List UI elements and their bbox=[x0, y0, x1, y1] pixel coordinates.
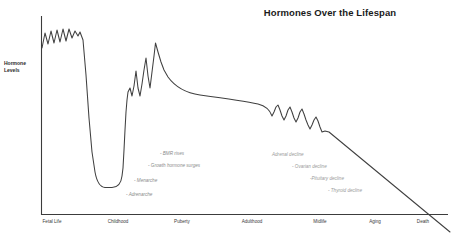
x-tick-label-puberty: Puberty bbox=[174, 219, 190, 224]
y-axis-label-line-2: Levels bbox=[4, 67, 38, 74]
chart-title: Hormones Over the Lifespan bbox=[230, 7, 430, 18]
annotation-menarche: - Menarche bbox=[134, 178, 157, 183]
annotation-bmr-rises: - BMR rises bbox=[160, 151, 184, 156]
x-tick-label-adulthood: Adulthood bbox=[242, 219, 263, 224]
x-tick-label-aging: Aging bbox=[369, 219, 381, 224]
annotation-adrenarche: - Adrenarche bbox=[126, 192, 152, 197]
x-tick-label-death: Death bbox=[417, 219, 429, 224]
y-axis-label: Hormone Levels bbox=[4, 60, 38, 75]
annotation-pituitary-decline: -Pituitary decline bbox=[310, 176, 344, 181]
x-tick-label-childhood: Childhood bbox=[108, 219, 129, 224]
hormone-level-curve bbox=[42, 29, 450, 232]
chart-canvas: Hormones Over the Lifespan Hormone Level… bbox=[0, 0, 460, 238]
annotation-adrenal-decline: Adrenal decline bbox=[272, 152, 304, 157]
annotation-thyroid-decline: - Thyroid decline bbox=[328, 188, 362, 193]
hormone-lifespan-plot bbox=[0, 0, 460, 238]
x-tick-label-midlife: Midlife bbox=[313, 219, 326, 224]
x-tick-label-fetal-life: Fetal Life bbox=[43, 219, 62, 224]
y-axis-label-line-1: Hormone bbox=[4, 60, 38, 67]
annotation-ovarian-decline: - Ovarian decline bbox=[292, 164, 327, 169]
annotation-growth-hormone-surges: - Growth hormone surges bbox=[148, 163, 200, 168]
